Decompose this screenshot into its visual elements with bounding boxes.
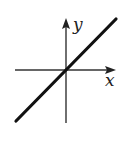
x-axis-label: x [105,70,115,90]
coordinate-diagram: y x [0,0,127,145]
y-axis-label: y [72,14,83,34]
